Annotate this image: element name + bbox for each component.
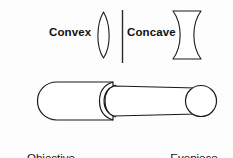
concave-label: Concave [127,26,176,39]
eyepiece-lens-label-line1: Eyepiece [158,152,230,158]
objective-tube [38,82,114,120]
objective-lens-label: Objective lens [11,126,91,158]
concave-lens-icon [173,11,201,59]
telescope-lens-diagram: Convex Concave Objective lens Eyepiece l… [0,0,233,158]
convex-label: Convex [49,26,91,39]
convex-lens-icon [98,12,109,58]
telescope-body [38,82,217,120]
objective-lens-label-line1: Objective [11,152,91,158]
eyepiece-lens-label: Eyepiece lens [158,126,230,158]
eyepiece-tube [105,86,196,116]
eyepiece-lens-circle [186,86,217,117]
